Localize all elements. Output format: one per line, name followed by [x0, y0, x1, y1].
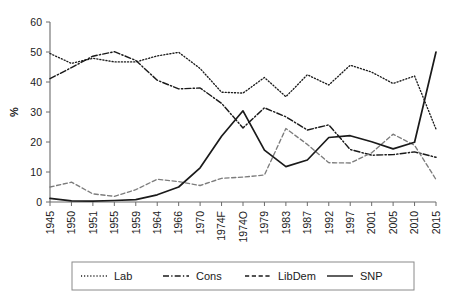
legend-label-lab: Lab — [114, 270, 132, 282]
x-tick-label: 1945 — [44, 211, 56, 235]
x-tick-label: 2001 — [365, 211, 377, 235]
x-tick-label: 2015 — [430, 211, 442, 235]
x-tick-label: 1974F — [215, 211, 227, 241]
y-tick-label: 20 — [30, 136, 42, 148]
x-tick-label: 1979 — [258, 211, 270, 235]
series-lines — [50, 52, 436, 201]
series-line-lab — [50, 52, 436, 129]
x-tick-label: 1959 — [130, 211, 142, 235]
legend-label-libdem: LibDem — [278, 270, 316, 282]
x-tick-label: 1997 — [344, 211, 356, 235]
series-line-snp — [50, 52, 436, 201]
x-axis: 194519501951195519591964196619701974F197… — [44, 202, 442, 243]
chart-legend: LabConsLibDemSNP — [72, 262, 414, 290]
legend-label-snp: SNP — [360, 270, 383, 282]
x-tick-label: 1955 — [108, 211, 120, 235]
x-tick-label: 1966 — [172, 211, 184, 235]
y-tick-label: 10 — [30, 166, 42, 178]
x-tick-label: 1970 — [194, 211, 206, 235]
chart-svg: 0102030405060 19451950195119551959196419… — [0, 0, 464, 300]
y-tick-label: 40 — [30, 76, 42, 88]
series-line-cons — [50, 52, 436, 158]
x-tick-label: 2005 — [387, 211, 399, 235]
x-tick-label: 1992 — [323, 211, 335, 235]
y-axis-title: % — [8, 107, 20, 117]
election-vote-share-chart: 0102030405060 19451950195119551959196419… — [0, 0, 464, 300]
x-tick-label: 1974O — [237, 211, 249, 243]
y-tick-label: 60 — [30, 16, 42, 28]
x-tick-label: 1983 — [280, 211, 292, 235]
x-tick-label: 2010 — [408, 211, 420, 235]
y-tick-label: 30 — [30, 106, 42, 118]
y-axis: 0102030405060 — [30, 16, 50, 208]
x-tick-label: 1951 — [87, 211, 99, 235]
x-tick-label: 1964 — [151, 211, 163, 235]
series-line-libdem — [50, 129, 436, 197]
y-tick-label: 0 — [36, 196, 42, 208]
x-tick-label: 1950 — [65, 211, 77, 235]
y-tick-label: 50 — [30, 46, 42, 58]
x-tick-label: 1987 — [301, 211, 313, 235]
legend-label-cons: Cons — [196, 270, 222, 282]
